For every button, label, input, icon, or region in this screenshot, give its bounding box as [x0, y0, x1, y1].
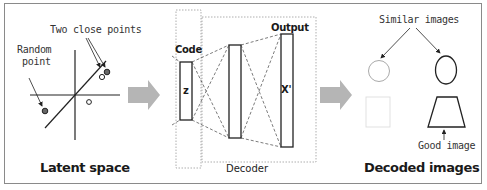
- decoded-images-title: Decoded images: [364, 160, 479, 175]
- decoder-network: [172, 10, 316, 168]
- decoder-title: Decoder: [226, 163, 268, 174]
- random-point-label-line1: Random: [17, 44, 51, 55]
- trapezoid-image: [428, 97, 465, 127]
- two-close-points-label: Two close points: [50, 24, 142, 35]
- decoded-images: [366, 28, 465, 140]
- faint-circle-image: [369, 61, 390, 82]
- z-label: z: [183, 85, 189, 96]
- open-point: [87, 100, 92, 105]
- hidden-layer: [229, 45, 241, 138]
- close-point-open: [99, 74, 104, 79]
- good-image-label: Good image: [418, 140, 475, 151]
- flow-arrow-2: [320, 80, 352, 110]
- faint-square-image: [366, 97, 390, 127]
- latent-space-title: Latent space: [40, 160, 130, 175]
- output-label: Output: [271, 22, 309, 33]
- ellipse-image: [436, 56, 457, 84]
- similar-images-label: Similar images: [379, 14, 459, 25]
- flow-arrow-1: [128, 80, 160, 110]
- random-point: [42, 108, 48, 114]
- close-point-filled: [104, 69, 110, 75]
- x-prime-label: X': [281, 84, 291, 95]
- random-point-label-line2: point: [22, 56, 51, 67]
- code-label: Code: [175, 44, 202, 55]
